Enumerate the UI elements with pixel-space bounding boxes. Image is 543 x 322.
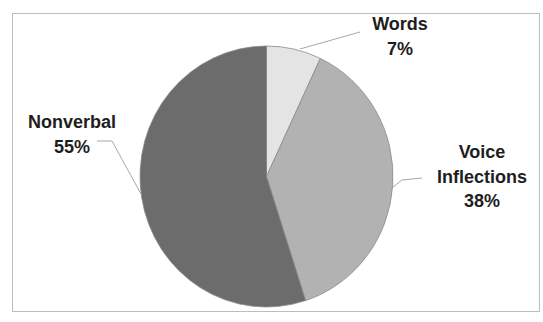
- label-words-value: 7%: [372, 37, 428, 62]
- label-words: Words 7%: [372, 12, 428, 61]
- label-voice-value: 38%: [437, 189, 527, 214]
- label-nonverbal-value: 55%: [28, 135, 116, 160]
- leader-voice: [393, 178, 422, 187]
- label-nonverbal-name: Nonverbal: [28, 110, 116, 135]
- leader-words: [300, 32, 360, 49]
- label-voice-name-1: Voice: [437, 140, 527, 165]
- label-voice-inflections: Voice Inflections 38%: [437, 140, 527, 214]
- label-nonverbal: Nonverbal 55%: [28, 110, 116, 159]
- pie-slices: [140, 46, 393, 307]
- label-voice-name-2: Inflections: [437, 165, 527, 190]
- label-words-name: Words: [372, 12, 428, 37]
